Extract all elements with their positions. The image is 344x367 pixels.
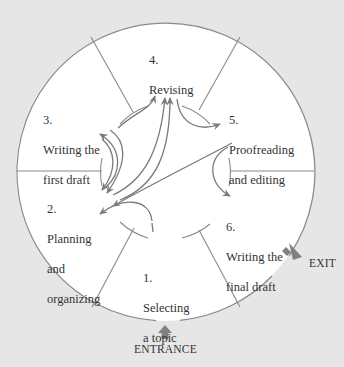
stage-2-title-line1: Planning [47,232,100,247]
stage-3-title-line1: Writing the [43,143,100,158]
stage-3-number: 3. [43,113,100,128]
stage-2-title-line2: and [47,262,100,277]
stage-6-label: 6. Writing the final draft [226,205,283,310]
exit-label: EXIT [309,257,336,269]
stage-2-label: 2. Planning and organizing [47,187,100,322]
stage-5-label: 5. Proofreading and editing [229,98,294,203]
stage-2-title-line3: organizing [47,292,100,307]
stage-1-title-line1: Selecting [143,301,190,316]
stage-3-title-line2: first draft [43,173,100,188]
entrance-label: ENTRANCE [134,343,197,355]
stage-4-title: Revising [149,83,193,98]
stage-5-number: 5. [229,113,294,128]
stage-4-number: 4. [149,53,193,68]
stage-6-title-line2: final draft [226,280,283,295]
stage-1-number: 1. [143,271,190,286]
stage-2-number: 2. [47,202,100,217]
writing-process-diagram: 4. Revising 3. Writing the first draft 5… [0,0,344,367]
stage-6-number: 6. [226,220,283,235]
stage-6-title-line1: Writing the [226,250,283,265]
stage-5-title-line1: Proofreading [229,143,294,158]
stage-4-label: 4. Revising [149,38,193,113]
stage-5-title-line2: and editing [229,173,294,188]
